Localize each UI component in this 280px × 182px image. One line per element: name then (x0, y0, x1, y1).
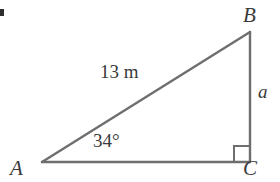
angle-measure-label: 34° (93, 131, 120, 150)
triangle-figure: A B C a 13 m 34° (0, 0, 280, 182)
triangle-side-hypotenuse-ab (42, 32, 250, 162)
vertex-label-a: A (10, 158, 23, 179)
vertex-label-b: B (243, 5, 256, 26)
hypotenuse-length-label: 13 m (100, 62, 139, 81)
triangle-drawing (0, 0, 280, 182)
vertex-label-c: C (243, 158, 257, 179)
side-label-a: a (258, 82, 268, 101)
